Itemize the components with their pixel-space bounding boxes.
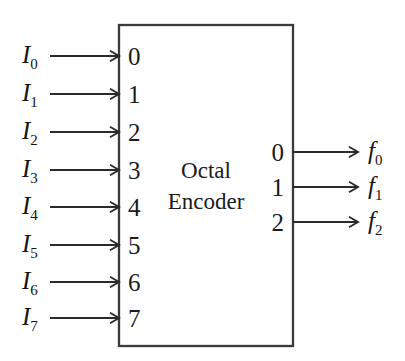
output-label-0: f0	[368, 137, 382, 168]
input-pin-number-6: 6	[128, 269, 141, 296]
diagram-canvas: I00I11I22I33I44I55I66I77 0f01f12f2 Octal…	[0, 0, 405, 361]
input-label-4: I4	[21, 192, 38, 223]
input-label-6: I6	[21, 267, 38, 298]
input-label-7: I7	[21, 303, 38, 334]
input-label-5: I5	[21, 230, 38, 261]
input-pin-number-0: 0	[128, 43, 141, 70]
block-title-line-1: Octal	[181, 158, 231, 183]
input-label-0: I0	[21, 41, 38, 72]
input-pin-number-1: 1	[128, 81, 141, 108]
octal-encoder-diagram: I00I11I22I33I44I55I66I77 0f01f12f2 Octal…	[0, 0, 405, 361]
input-label-1: I1	[21, 79, 38, 110]
input-pin-number-5: 5	[128, 232, 141, 259]
encoder-block-rect	[119, 25, 293, 346]
output-pin-number-1: 1	[272, 174, 285, 201]
output-pin-number-2: 2	[272, 209, 285, 236]
input-pin-number-2: 2	[128, 119, 141, 146]
output-pin-number-0: 0	[272, 139, 285, 166]
output-label-1: f1	[368, 172, 382, 203]
block-title-line-2: Encoder	[168, 189, 245, 214]
input-pin-number-3: 3	[128, 157, 141, 184]
input-pin-number-7: 7	[128, 305, 141, 332]
output-label-2: f2	[368, 207, 382, 238]
input-label-2: I2	[21, 117, 38, 148]
input-label-3: I3	[21, 155, 38, 186]
input-pin-number-4: 4	[128, 194, 141, 221]
